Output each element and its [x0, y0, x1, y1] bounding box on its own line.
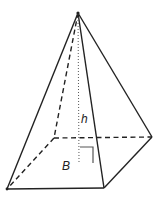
pyramid-diagram: h B — [0, 0, 160, 198]
base-label: B — [62, 159, 70, 173]
height-line — [78, 14, 79, 163]
right-angle-marker — [80, 147, 93, 163]
edge-base-left — [7, 138, 54, 189]
edge-base-right — [104, 137, 152, 188]
apex-point — [76, 11, 79, 14]
visible-edges — [7, 13, 152, 189]
edge-apex-front-right — [78, 13, 104, 188]
height-label: h — [81, 112, 88, 126]
edge-apex-back-right — [78, 13, 152, 137]
front-left-point — [6, 188, 9, 191]
edge-base-back — [54, 137, 152, 138]
edge-apex-back-left — [54, 13, 78, 138]
edge-base-front — [7, 188, 104, 189]
